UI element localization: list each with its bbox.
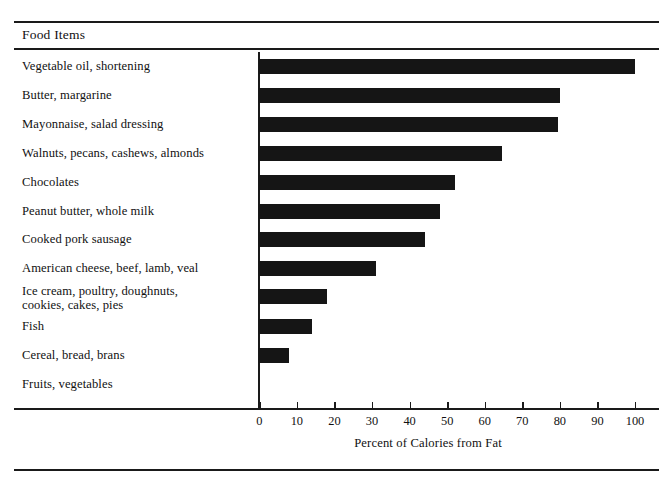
x-tick-label: 20 <box>314 414 354 429</box>
x-tick-label: 100 <box>615 414 655 429</box>
bar <box>259 204 439 219</box>
x-axis-line <box>14 408 659 410</box>
plot-area: Vegetable oil, shorteningButter, margari… <box>0 0 671 484</box>
x-tick-label: 70 <box>502 414 542 429</box>
x-tick-label: 80 <box>540 414 580 429</box>
chart-row: Walnuts, pecans, cashews, almonds <box>0 145 671 174</box>
chart-row: Cereal, bread, brans <box>0 347 671 376</box>
chart-row: Peanut butter, whole milk <box>0 203 671 232</box>
chart-row: Cooked pork sausage <box>0 231 671 260</box>
bar <box>259 232 424 247</box>
bar-category-label: Fish <box>22 319 250 333</box>
x-tick-label: 60 <box>465 414 505 429</box>
bar-category-label: Mayonnaise, salad dressing <box>22 117 250 131</box>
bar <box>259 319 312 334</box>
x-tick-label: 0 <box>239 414 279 429</box>
x-tick-label: 50 <box>427 414 467 429</box>
chart-row: Fruits, vegetables <box>0 376 671 405</box>
bar-category-label: American cheese, beef, lamb, veal <box>22 261 250 275</box>
x-axis-title-wrap: Percent of Calories from Fat <box>0 436 671 451</box>
bar-category-label: Chocolates <box>22 175 250 189</box>
bar <box>259 175 454 190</box>
chart-row: Ice cream, poultry, doughnuts,cookies, c… <box>0 289 671 318</box>
bar-category-label: Butter, margarine <box>22 88 250 102</box>
bar <box>259 146 501 161</box>
chart-row: Butter, margarine <box>0 87 671 116</box>
bar <box>259 261 375 276</box>
bar <box>259 88 560 103</box>
bar <box>259 117 558 132</box>
bar-category-label: Cereal, bread, brans <box>22 348 250 362</box>
bar-category-label: Peanut butter, whole milk <box>22 204 250 218</box>
x-tick-label: 10 <box>277 414 317 429</box>
bar-category-label: Vegetable oil, shortening <box>22 59 250 73</box>
bar-category-label: Fruits, vegetables <box>22 377 250 391</box>
bar <box>259 348 289 363</box>
bar-category-label: Ice cream, poultry, doughnuts,cookies, c… <box>22 284 250 312</box>
bar-category-label: Walnuts, pecans, cashews, almonds <box>22 146 250 160</box>
chart-row: Fish <box>0 318 671 347</box>
chart-row: Mayonnaise, salad dressing <box>0 116 671 145</box>
chart-row: Chocolates <box>0 174 671 203</box>
bar <box>259 59 635 74</box>
x-tick-label: 40 <box>390 414 430 429</box>
chart-page: Food Items Vegetable oil, shorteningButt… <box>0 0 671 484</box>
bar <box>259 289 327 304</box>
x-axis-title: Percent of Calories from Fat <box>354 436 502 451</box>
chart-row: Vegetable oil, shortening <box>0 58 671 87</box>
bar-category-label: Cooked pork sausage <box>22 232 250 246</box>
x-tick-label: 90 <box>577 414 617 429</box>
bottom-rule <box>14 469 659 471</box>
x-tick-label: 30 <box>352 414 392 429</box>
